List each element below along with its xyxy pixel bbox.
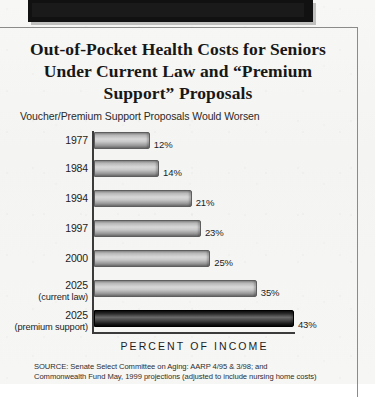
bar xyxy=(94,220,201,237)
title-line-1: Out-of-Pocket Health Costs for Seniors xyxy=(8,38,348,60)
title-line-3: Support” Proposals xyxy=(8,82,348,104)
bar xyxy=(94,190,192,207)
bar-category-year: 2025 xyxy=(65,309,88,321)
bar-value-label: 12% xyxy=(154,139,173,150)
black-banner-fragment xyxy=(28,0,313,22)
bar-category-label: 1984 xyxy=(0,163,88,175)
bar-category-label: 2025(premium support) xyxy=(0,310,88,333)
bar xyxy=(94,160,159,177)
bar-category-year: 2025 xyxy=(65,279,88,291)
bar-row: 197712% xyxy=(0,132,360,162)
bar xyxy=(94,310,294,327)
bar-category-year: 1994 xyxy=(65,192,88,204)
page-title: Out-of-Pocket Health Costs for Seniors U… xyxy=(8,38,348,104)
bar-category-label: 2000 xyxy=(0,253,88,265)
bar-category-sublabel: (current law) xyxy=(0,292,88,304)
bar-value-label: 14% xyxy=(163,167,182,178)
bar xyxy=(94,132,150,149)
bar-category-label: 1997 xyxy=(0,223,88,235)
bar-row: 2025(current law)35% xyxy=(0,280,360,310)
bar xyxy=(94,280,257,297)
bar-category-year: 2000 xyxy=(65,252,88,264)
source-note: SOURCE: Senate Select Committee on Aging… xyxy=(34,362,354,382)
bar-value-label: 35% xyxy=(261,287,280,298)
bar-value-label: 43% xyxy=(298,319,317,330)
bar-category-label: 2025(current law) xyxy=(0,280,88,303)
bar-chart: 197712%198414%199421%199723%200025%2025(… xyxy=(0,128,360,338)
source-line-2: Commonwealth Fund May, 1999 projections … xyxy=(34,372,354,382)
black-banner-inner xyxy=(32,3,304,17)
bar-row: 199421% xyxy=(0,190,360,220)
bar-row: 2025(premium support)43% xyxy=(0,310,360,340)
bar-category-year: 1997 xyxy=(65,222,88,234)
chart-subtitle: Voucher/Premium Support Proposals Would … xyxy=(20,110,260,122)
bar-row: 198414% xyxy=(0,160,360,190)
bar-category-year: 1984 xyxy=(65,162,88,174)
source-line-1: SOURCE: Senate Select Committee on Aging… xyxy=(34,362,354,372)
bar-value-label: 23% xyxy=(205,227,224,238)
bar-row: 199723% xyxy=(0,220,360,250)
x-axis-label: PERCENT OF INCOME xyxy=(92,340,297,352)
title-line-2: Under Current Law and “Premium xyxy=(8,60,348,82)
bar-row: 200025% xyxy=(0,250,360,280)
bar-value-label: 21% xyxy=(196,197,215,208)
bar-category-label: 1994 xyxy=(0,193,88,205)
bar-category-sublabel: (premium support) xyxy=(0,322,88,334)
bar-category-label: 1977 xyxy=(0,135,88,147)
bar-value-label: 25% xyxy=(214,257,233,268)
bar-category-year: 1977 xyxy=(65,134,88,146)
bar xyxy=(94,250,210,267)
